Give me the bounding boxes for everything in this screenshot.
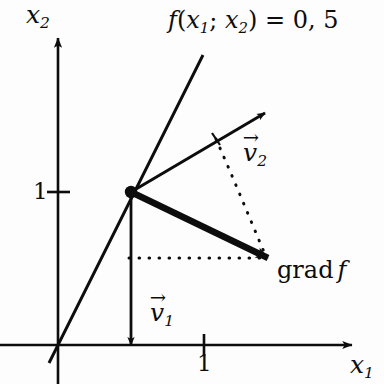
function-open-paren: ( bbox=[177, 6, 186, 34]
gradient-label: gradf bbox=[277, 258, 346, 282]
x-axis-label-base: x bbox=[350, 350, 364, 379]
function-arg1-base: x bbox=[186, 6, 200, 34]
vector-v2-label: →v2 bbox=[243, 140, 267, 169]
gradient-vector-arrow bbox=[131, 192, 268, 258]
vector-v1-accent-icon: → bbox=[150, 288, 166, 308]
y-axis-tick-label: 1 bbox=[33, 180, 48, 203]
function-arg1-subscript: 1 bbox=[200, 19, 209, 37]
diagram-canvas bbox=[0, 0, 384, 384]
x-axis-label-subscript: 1 bbox=[364, 364, 374, 382]
vector-v1-label: →v1 bbox=[150, 300, 174, 329]
function-arg2-base: x bbox=[225, 6, 239, 34]
function-symbol: f bbox=[168, 6, 177, 34]
function-label: f(x1; x2) = 0, 5 bbox=[168, 8, 339, 36]
gradient-diagram: x2 x1 1 1 f(x1; x2) = 0, 5 →v2 →v1 gradf bbox=[0, 0, 384, 384]
vertex-point bbox=[125, 186, 137, 198]
function-arg-separator: ; bbox=[209, 6, 217, 34]
level-line bbox=[49, 55, 203, 363]
vector-v2-accent-icon: → bbox=[243, 128, 259, 148]
y-axis-label: x2 bbox=[26, 2, 50, 31]
function-close-paren: ) bbox=[248, 6, 257, 34]
y-axis-label-subscript: 2 bbox=[40, 14, 50, 32]
vector-v1-subscript: 1 bbox=[164, 312, 174, 330]
function-equals-sign: = bbox=[265, 6, 285, 34]
function-value: 0, 5 bbox=[293, 6, 339, 34]
x-axis-label: x1 bbox=[350, 352, 374, 381]
function-arg2-subscript: 2 bbox=[239, 19, 248, 37]
gradient-function-symbol: f bbox=[338, 256, 347, 284]
x-axis-tick-label: 1 bbox=[197, 352, 212, 375]
gradient-operator: grad bbox=[277, 256, 334, 284]
vector-v2-subscript: 2 bbox=[257, 152, 267, 170]
y-axis-label-base: x bbox=[26, 0, 40, 29]
